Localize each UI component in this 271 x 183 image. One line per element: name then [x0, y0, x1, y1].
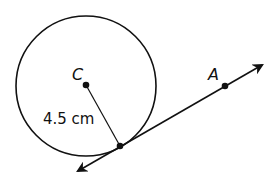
radius-label: 4.5 cm	[43, 110, 94, 128]
point-a-label: A	[207, 65, 219, 84]
tangent-point	[117, 143, 124, 150]
tangent-line	[78, 65, 262, 171]
center-point	[83, 82, 90, 89]
point-a	[222, 83, 229, 90]
geometry-diagram: C 4.5 cm A	[0, 0, 271, 183]
center-label: C	[72, 65, 84, 84]
